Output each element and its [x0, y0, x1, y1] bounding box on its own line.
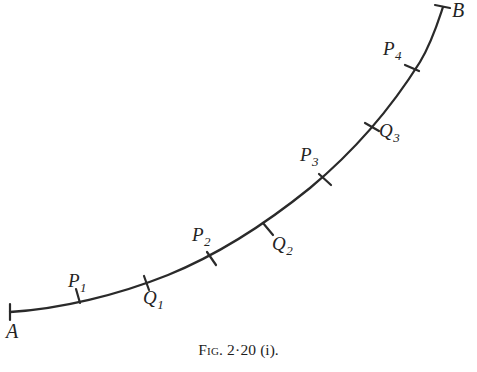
point-letter-p1: P — [68, 270, 80, 291]
point-label-q2: Q2 — [272, 234, 293, 257]
point-label-p4: P4 — [383, 39, 402, 62]
point-subscript-q1: 1 — [157, 297, 164, 312]
curve-diagram — [0, 0, 477, 372]
curve-group — [10, 7, 443, 312]
point-label-p1: P1 — [68, 271, 87, 294]
caption-prefix: Fig. — [198, 341, 223, 358]
point-subscript-p2: 2 — [204, 234, 211, 249]
point-label-q3: Q3 — [379, 121, 400, 144]
point-label-q1: Q1 — [143, 288, 164, 311]
caption-number: 2·20 — [227, 341, 256, 358]
point-subscript-q2: 2 — [286, 243, 293, 258]
tick-mark-Q3 — [365, 123, 379, 131]
point-label-p2: P2 — [192, 225, 211, 248]
point-subscript-q3: 3 — [393, 130, 400, 145]
tick-mark-B — [435, 5, 450, 8]
figure-container: A B P1 Q1 P2 Q2 P3 Q3 P4 Fig. 2·20 (i). — [0, 0, 477, 372]
point-letter-q2: Q — [272, 233, 286, 254]
point-letter-q3: Q — [379, 120, 393, 141]
caption-suffix: (i). — [260, 341, 279, 358]
point-letter-p2: P — [192, 224, 204, 245]
endpoint-label-A: A — [6, 321, 18, 341]
point-letter-p3: P — [300, 144, 312, 165]
point-letter-p4: P — [383, 38, 395, 59]
point-subscript-p1: 1 — [80, 280, 87, 295]
point-letter-q1: Q — [143, 287, 157, 308]
point-subscript-p4: 4 — [395, 48, 402, 63]
curve-path — [10, 7, 443, 312]
figure-caption: Fig. 2·20 (i). — [0, 341, 477, 358]
point-label-p3: P3 — [300, 145, 319, 168]
point-subscript-p3: 3 — [312, 154, 319, 169]
endpoint-label-B: B — [452, 0, 464, 20]
